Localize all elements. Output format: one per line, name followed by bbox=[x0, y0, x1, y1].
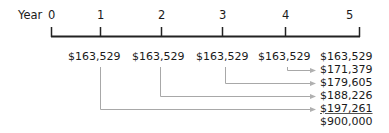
connector-year-4 bbox=[288, 67, 313, 71]
arrowhead-icon bbox=[310, 81, 316, 86]
connector-year-1 bbox=[101, 67, 313, 110]
connector-year-2 bbox=[161, 67, 313, 97]
year-label-5: 5 bbox=[346, 8, 353, 22]
future-value-year-4: $171,379 bbox=[320, 63, 373, 76]
future-value-year-3: $179,605 bbox=[320, 76, 373, 89]
future-value-year-1: $197,261 bbox=[320, 102, 373, 115]
future-value-year-2: $188,226 bbox=[320, 89, 373, 102]
future-value-total: $900,000 bbox=[320, 115, 373, 128]
arrowhead-icon bbox=[310, 107, 316, 112]
year-label-0: 0 bbox=[48, 8, 55, 22]
arrowhead-icon bbox=[310, 94, 316, 99]
year-label-1: 1 bbox=[97, 8, 104, 22]
cash-flow-year-1: $163,529 bbox=[68, 50, 121, 63]
connector-year-3 bbox=[226, 67, 313, 84]
year-label-4: 4 bbox=[282, 8, 289, 22]
cash-flow-year-4: $163,529 bbox=[258, 50, 311, 63]
arrowhead-icon bbox=[310, 68, 316, 73]
year-label-2: 2 bbox=[158, 8, 165, 22]
axis-label: Year bbox=[18, 8, 42, 22]
future-value-year-5: $163,529 bbox=[320, 50, 373, 63]
cash-flow-year-3: $163,529 bbox=[196, 50, 249, 63]
cash-flow-year-2: $163,529 bbox=[132, 50, 185, 63]
year-label-3: 3 bbox=[219, 8, 226, 22]
